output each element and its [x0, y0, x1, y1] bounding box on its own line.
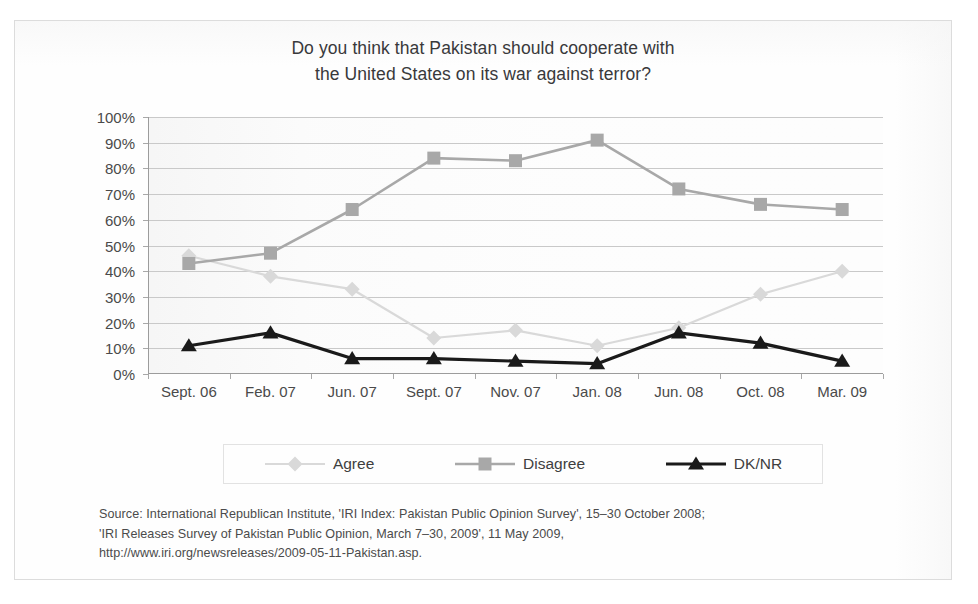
y-tick-label: 70%: [105, 186, 135, 203]
x-tick-label: Oct. 08: [736, 383, 784, 400]
x-tick-label: Nov. 07: [490, 383, 541, 400]
y-tick-label: 0%: [113, 366, 135, 383]
data-point-marker: [426, 331, 441, 346]
chart-legend: AgreeDisagreeDK/NR: [223, 444, 823, 484]
x-axis-tick: [148, 374, 149, 379]
data-point-marker: [672, 182, 685, 195]
data-point-marker: [263, 325, 279, 338]
x-tick-label: Jun. 08: [654, 383, 703, 400]
legend-marker-icon: [454, 456, 516, 472]
y-tick-label: 30%: [105, 288, 135, 305]
x-tick-label: Feb. 07: [245, 383, 296, 400]
source-note: Source: International Republican Institu…: [99, 505, 899, 564]
data-point-marker: [753, 287, 768, 302]
source-line-2: 'IRI Releases Survey of Pakistan Public …: [99, 525, 899, 545]
y-tick-label: 80%: [105, 160, 135, 177]
source-line-3: http://www.iri.org/newsreleases/2009-05-…: [99, 544, 899, 564]
data-point-marker: [508, 323, 523, 338]
x-axis-tick: [638, 374, 639, 379]
series-disagree: [182, 134, 848, 270]
legend-label: DK/NR: [734, 455, 782, 473]
plot-wrapper: 0%10%20%30%40%50%60%70%80%90%100% Sept. …: [15, 21, 953, 581]
x-tick-label: Mar. 09: [817, 383, 867, 400]
legend-marker-icon: [264, 456, 326, 472]
legend-marker-icon: [665, 456, 727, 472]
x-tick-label: Sept. 07: [406, 383, 462, 400]
x-axis-labels: Sept. 06Feb. 07Jun. 07Sept. 07Nov. 07Jan…: [148, 383, 883, 411]
data-point-marker: [264, 247, 277, 260]
data-point-marker: [835, 264, 850, 279]
y-tick-label: 50%: [105, 237, 135, 254]
x-axis-tick: [720, 374, 721, 379]
legend-label: Disagree: [523, 455, 585, 473]
x-axis-tick: [475, 374, 476, 379]
y-tick-label: 40%: [105, 263, 135, 280]
source-line-1: Source: International Republican Institu…: [99, 505, 899, 525]
x-axis-tick: [393, 374, 394, 379]
x-axis-tick: [883, 374, 884, 379]
y-tick-label: 100%: [97, 109, 135, 126]
x-axis-tick: [801, 374, 802, 379]
data-point-marker: [182, 257, 195, 270]
data-point-marker: [754, 198, 767, 211]
x-tick-label: Jun. 07: [328, 383, 377, 400]
data-point-marker: [345, 282, 360, 297]
x-axis-tick: [556, 374, 557, 379]
x-axis-tick: [311, 374, 312, 379]
y-tick-label: 20%: [105, 314, 135, 331]
legend-label: Agree: [333, 455, 374, 473]
chart-page-frame: Do you think that Pakistan should cooper…: [14, 20, 952, 580]
series-plot: [148, 117, 883, 374]
data-point-marker: [590, 338, 605, 353]
legend-item-agree[interactable]: Agree: [264, 455, 374, 473]
data-point-marker: [509, 154, 522, 167]
data-point-marker: [427, 152, 440, 165]
y-tick-label: 10%: [105, 340, 135, 357]
data-point-marker: [346, 203, 359, 216]
plot-area: [148, 117, 883, 374]
data-point-marker: [836, 203, 849, 216]
data-point-marker: [591, 134, 604, 147]
x-tick-label: Sept. 06: [161, 383, 217, 400]
legend-item-dk-nr[interactable]: DK/NR: [665, 455, 782, 473]
y-tick-label: 60%: [105, 211, 135, 228]
y-axis-labels: 0%10%20%30%40%50%60%70%80%90%100%: [75, 117, 135, 374]
y-tick-label: 90%: [105, 134, 135, 151]
x-axis-tick: [230, 374, 231, 379]
x-tick-label: Jan. 08: [573, 383, 622, 400]
data-point-marker: [263, 269, 278, 284]
legend-item-disagree[interactable]: Disagree: [454, 455, 585, 473]
